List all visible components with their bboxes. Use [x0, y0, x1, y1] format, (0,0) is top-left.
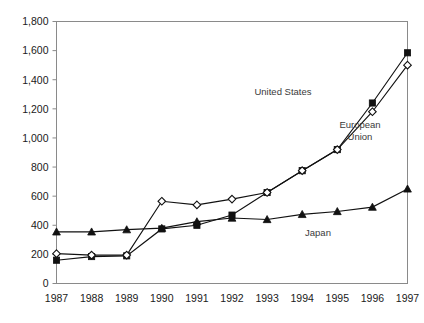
series-label-european-union: Union: [348, 131, 373, 142]
series-label-japan: Japan: [305, 227, 331, 238]
series-label-united-states: United States: [254, 86, 311, 97]
x-axis: 1987198819891990199119921993199419951996…: [45, 292, 420, 304]
series-layer: [53, 50, 412, 264]
y-axis-tick-label: 400: [31, 219, 49, 231]
y-axis-tick-label: 800: [31, 161, 49, 173]
data-point-marker: [228, 195, 236, 203]
series-japan: [53, 185, 412, 235]
y-axis-tick-label: 1,800: [22, 15, 48, 27]
data-point-marker: [193, 201, 201, 209]
x-axis-tick-label: 1993: [255, 292, 279, 304]
x-axis-tick-label: 1992: [220, 292, 244, 304]
series-line: [57, 53, 408, 260]
x-axis-tick-label: 1988: [80, 292, 104, 304]
x-axis-tick-label: 1991: [185, 292, 209, 304]
data-point-marker: [404, 50, 410, 56]
data-point-marker: [53, 250, 61, 258]
x-axis-tick-label: 1995: [326, 292, 350, 304]
y-axis-tick-label: 200: [31, 248, 49, 260]
data-point-marker: [369, 100, 375, 106]
series-line: [57, 65, 408, 255]
series-label-european-union: European: [339, 119, 380, 130]
x-axis-tick-label: 1996: [361, 292, 385, 304]
y-axis-tick-label: 1,600: [22, 44, 48, 56]
data-point-marker: [158, 197, 166, 205]
y-axis-tick-label: 1,000: [22, 132, 48, 144]
x-axis-tick-label: 1987: [45, 292, 69, 304]
line-chart: 02004006008001,0001,2001,4001,6001,800 1…: [0, 0, 424, 323]
y-axis-tick-label: 600: [31, 190, 49, 202]
y-axis-tick-label: 0: [43, 277, 49, 289]
x-axis-tick-label: 1989: [115, 292, 139, 304]
chart-container: 02004006008001,0001,2001,4001,6001,800 1…: [0, 0, 424, 323]
y-axis-tick-label: 1,200: [22, 103, 48, 115]
series-european-union: [53, 61, 412, 259]
y-axis: 02004006008001,0001,2001,4001,6001,800: [22, 15, 56, 289]
plot-area-frame: [57, 22, 408, 284]
data-point-marker: [369, 203, 377, 210]
data-point-marker: [404, 185, 412, 192]
x-axis-tick-label: 1990: [150, 292, 174, 304]
x-axis-tick-label: 1997: [396, 292, 420, 304]
y-axis-tick-label: 1,400: [22, 74, 48, 86]
x-axis-tick-label: 1994: [291, 292, 315, 304]
